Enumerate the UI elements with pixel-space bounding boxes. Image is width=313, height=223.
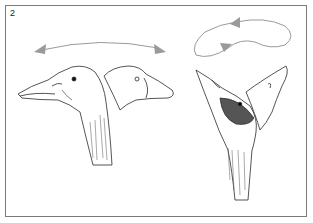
goose-illustration [0, 0, 313, 223]
goose-head-tilted-left [196, 70, 256, 200]
goose-head-right-facing [104, 66, 173, 110]
side-to-side-arrow-icon [34, 42, 166, 54]
goose-head-left-facing [18, 66, 112, 165]
rotation-loop-arrow-icon [194, 17, 291, 56]
